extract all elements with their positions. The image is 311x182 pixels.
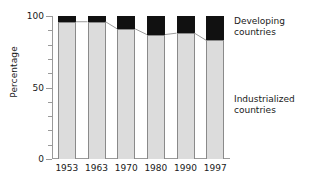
plot-area: 050100 <box>52 16 230 159</box>
y-tick-label: 0 <box>38 154 44 164</box>
bar-segment-industrialized <box>58 22 76 159</box>
bar-segment-industrialized <box>206 40 224 159</box>
y-tick-minor <box>48 59 52 60</box>
bar-group <box>206 16 224 159</box>
y-tick-minor <box>48 73 52 74</box>
y-tick-minor <box>48 116 52 117</box>
y-tick-minor <box>48 130 52 131</box>
y-tick-minor <box>48 45 52 46</box>
x-tick-label: 1970 <box>115 163 138 173</box>
y-tick-minor <box>48 102 52 103</box>
y-tick-label: 50 <box>33 83 44 93</box>
x-tick-label: 1997 <box>204 163 227 173</box>
bar-segment-developing <box>58 16 76 22</box>
y-axis-title: Percentage <box>9 32 19 112</box>
x-tick-label: 1990 <box>174 163 197 173</box>
legend-label-developing: Developing countries <box>234 16 285 38</box>
bar-segment-developing <box>88 16 106 22</box>
bar-segment-developing <box>147 16 165 35</box>
bar-segment-developing <box>177 16 195 33</box>
y-tick-minor <box>48 145 52 146</box>
bar-group <box>88 16 106 159</box>
y-tick-minor <box>48 30 52 31</box>
chart-figure: Percentage 050100 1953196319701980199019… <box>0 0 311 182</box>
x-tick-label: 1963 <box>85 163 108 173</box>
bar-segment-industrialized <box>177 33 195 159</box>
bar-group <box>147 16 165 159</box>
y-tick-major <box>46 16 52 17</box>
y-tick-major <box>46 88 52 89</box>
bar-segment-developing <box>206 16 224 40</box>
x-tick-label: 1953 <box>55 163 78 173</box>
x-tick-label: 1980 <box>144 163 167 173</box>
bar-group <box>117 16 135 159</box>
y-tick-label: 100 <box>27 11 44 21</box>
bar-segment-developing <box>117 16 135 29</box>
bar-group <box>177 16 195 159</box>
bar-segment-industrialized <box>117 29 135 159</box>
bar-segment-industrialized <box>147 35 165 159</box>
bar-group <box>58 16 76 159</box>
bar-segment-industrialized <box>88 22 106 159</box>
legend-label-industrialized: Industrialized countries <box>234 94 295 116</box>
y-tick-major <box>46 159 52 160</box>
